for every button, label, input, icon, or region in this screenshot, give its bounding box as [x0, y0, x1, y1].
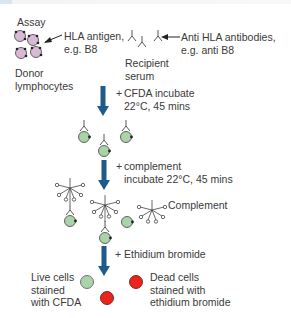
- dead-cell-icon: [130, 276, 143, 289]
- step3-arrow-icon: [98, 246, 110, 276]
- complement-label: Complement: [168, 199, 228, 212]
- result-cells-icon: [81, 276, 143, 305]
- hla-pointer-arrow: [44, 35, 62, 43]
- step1-text: CFDA incubate 22°C, 45 mins: [124, 87, 195, 112]
- step1-prefix: +: [116, 87, 122, 100]
- assay-diagram: Assay HLA antigen, e.g. B8 Anti HLA anti…: [0, 0, 291, 318]
- step3-text: Ethidium bromide: [124, 248, 206, 261]
- dead-cells-label: Dead cells stained with ethidium bromide: [150, 271, 231, 309]
- step3-prefix: +: [115, 248, 121, 261]
- assay-title: Assay: [17, 16, 46, 29]
- antibody-pointer-arrow: [161, 34, 180, 40]
- recipient-serum-label: Recipient serum: [125, 57, 169, 82]
- antibodies-icon: [128, 30, 162, 47]
- step2-prefix: +: [116, 160, 122, 173]
- live-cell-icon: [81, 276, 94, 289]
- live-cells-label: Live cells stained with CFDA: [31, 271, 81, 309]
- complement-cells-icon: [55, 178, 166, 244]
- hla-antigen-label: HLA antigen, e.g. B8: [64, 30, 124, 55]
- donor-lymphocytes-icon: [15, 31, 43, 59]
- step1-arrow-icon: [97, 86, 109, 116]
- bound-cells-icon: [79, 120, 133, 157]
- donor-lymphocytes-label: Donor lymphocytes: [15, 67, 73, 92]
- step2-text: complement incubate 22°C, 45 mins: [124, 160, 233, 185]
- anti-hla-label: Anti HLA antibodies, e.g. anti B8: [181, 31, 276, 56]
- step2-arrow-icon: [98, 160, 110, 190]
- dead-cell-icon: [101, 292, 114, 305]
